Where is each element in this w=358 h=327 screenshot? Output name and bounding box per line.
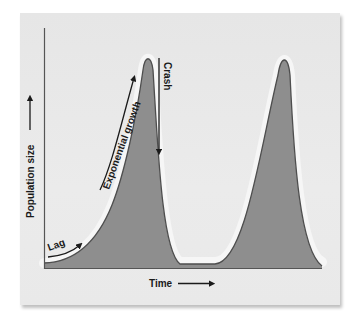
- crash-label: Crash: [162, 62, 173, 90]
- x-axis-label: Time: [149, 278, 173, 289]
- population-boom-bust-chart: Lag Exponential growth Crash Population …: [0, 0, 358, 327]
- population-area: [44, 59, 322, 268]
- y-axis-label: Population size: [25, 144, 36, 218]
- lag-label: Lag: [46, 236, 66, 252]
